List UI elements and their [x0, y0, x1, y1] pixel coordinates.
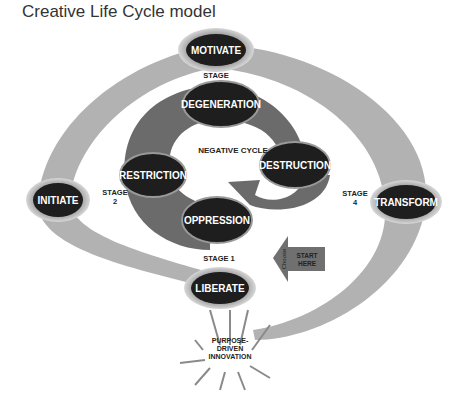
node-degeneration[interactable]: DEGENERATION — [181, 81, 261, 127]
node-restriction-label: RESTRICTION — [119, 170, 187, 181]
burst-line3: INNOVATION — [209, 353, 252, 360]
node-motivate-label: MOTIVATE — [191, 45, 242, 56]
stage-4-line1: STAGE — [342, 189, 367, 198]
node-oppression-label: OPPRESSION — [184, 215, 250, 226]
node-transform[interactable]: TRANSFORM — [370, 180, 442, 224]
node-initiate-label: INITIATE — [38, 195, 79, 206]
stage-1-label: STAGE 1 — [203, 254, 235, 263]
node-destruction[interactable]: DESTRUCTION — [259, 142, 331, 188]
burst-line2: DRIVEN — [217, 345, 243, 352]
stage-3-line1: STAGE — [203, 71, 228, 80]
life-cycle-diagram: MOTIVATE INITIATE LIBERATE TRANSFORM DEG… — [0, 0, 466, 397]
node-liberate-label: LIBERATE — [195, 283, 245, 294]
node-transform-label: TRANSFORM — [374, 197, 438, 208]
node-initiate[interactable]: INITIATE — [26, 178, 90, 222]
negative-cycle-label: NEGATIVE CYCLE — [198, 146, 268, 155]
start-line2: HERE — [298, 260, 317, 267]
stage-4-line2: 4 — [353, 198, 358, 207]
start-line1: START — [296, 252, 317, 259]
node-liberate[interactable]: LIBERATE — [184, 267, 256, 309]
stage-3-line2: 3 — [214, 80, 218, 89]
node-degeneration-label: DEGENERATION — [181, 99, 261, 110]
node-restriction[interactable]: RESTRICTION — [119, 153, 187, 197]
stage-2-line1: STAGE — [102, 188, 127, 197]
node-oppression[interactable]: OPPRESSION — [182, 197, 252, 243]
burst-line1: PURPOSE- — [212, 337, 249, 344]
stage-2-line2: 2 — [113, 197, 117, 206]
start-here-arrow[interactable]: START HERE Choose — [273, 236, 325, 282]
node-motivate[interactable]: MOTIVATE — [178, 28, 254, 72]
node-destruction-label: DESTRUCTION — [259, 160, 331, 171]
choose-label: Choose — [281, 248, 287, 269]
